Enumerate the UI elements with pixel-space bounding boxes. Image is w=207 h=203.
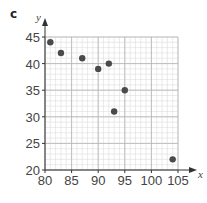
data-point bbox=[122, 87, 128, 93]
data-point bbox=[58, 50, 64, 56]
y-tick-label: 45 bbox=[26, 30, 40, 45]
data-point bbox=[47, 39, 53, 45]
x-tick-label: 100 bbox=[141, 173, 163, 188]
x-tick-label: 85 bbox=[64, 173, 78, 188]
data-point bbox=[106, 60, 112, 66]
x-tick-label: 105 bbox=[167, 173, 189, 188]
y-axis-label: y bbox=[35, 11, 41, 23]
y-tick-label: 20 bbox=[26, 163, 40, 178]
data-point bbox=[95, 66, 101, 72]
x-tick-label: 90 bbox=[91, 173, 105, 188]
x-axis-arrow-icon bbox=[189, 167, 197, 173]
data-point bbox=[169, 156, 175, 162]
y-tick-label: 30 bbox=[26, 110, 40, 125]
x-tick-label: 95 bbox=[118, 173, 132, 188]
y-tick-label: 25 bbox=[26, 136, 40, 151]
x-axis-label: x bbox=[197, 168, 203, 180]
data-point bbox=[79, 55, 85, 61]
scatter-chart: 80859095100105202530354045xy bbox=[0, 0, 207, 203]
data-point bbox=[111, 108, 117, 114]
y-tick-label: 35 bbox=[26, 83, 40, 98]
y-tick-label: 40 bbox=[26, 57, 40, 72]
y-axis-arrow-icon bbox=[42, 18, 48, 26]
